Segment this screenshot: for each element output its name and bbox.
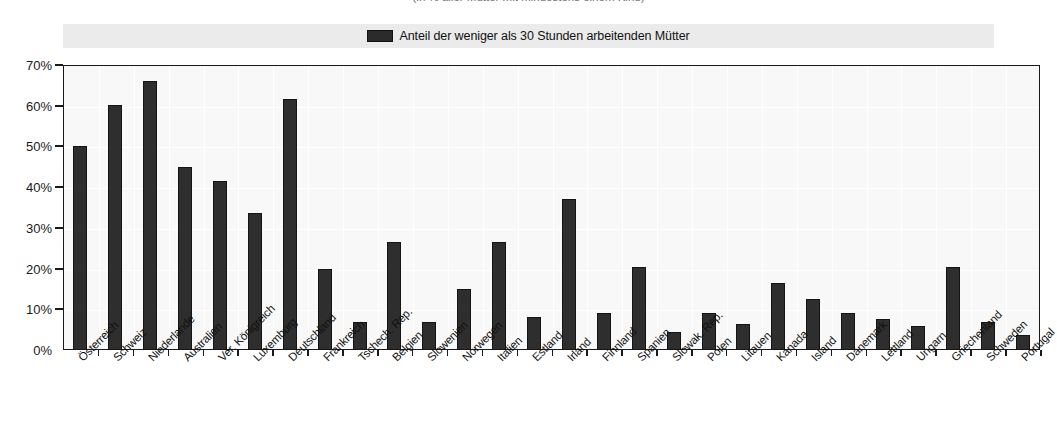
- x-tick-mark: [796, 350, 798, 356]
- x-tick-mark: [900, 350, 902, 356]
- x-tick-mark: [377, 350, 379, 356]
- x-tick-mark: [935, 350, 937, 356]
- gridline-vertical: [99, 66, 100, 349]
- x-tick-mark: [866, 350, 868, 356]
- x-tick-mark: [586, 350, 588, 356]
- x-tick-mark: [307, 350, 309, 356]
- gridline-vertical: [692, 66, 693, 349]
- plot-area: [63, 65, 1040, 350]
- gridline-vertical: [518, 66, 519, 349]
- legend-swatch-icon: [367, 30, 393, 42]
- gridline-horizontal: [64, 270, 1039, 271]
- gridline-horizontal: [64, 310, 1039, 311]
- gridline-horizontal: [64, 229, 1039, 230]
- gridline-horizontal: [64, 147, 1039, 148]
- gridline-vertical: [727, 66, 728, 349]
- gridline-vertical: [238, 66, 239, 349]
- y-tick-mark: [55, 308, 63, 310]
- y-tick-label: 30%: [26, 220, 52, 235]
- gridline-vertical: [867, 66, 868, 349]
- x-tick-mark: [761, 350, 763, 356]
- chart-title-strip: (in % aller Mütter mit mindestens einem …: [0, 0, 1057, 14]
- gridline-vertical: [971, 66, 972, 349]
- x-tick-mark: [517, 350, 519, 356]
- x-tick-mark: [726, 350, 728, 356]
- gridline-vertical: [762, 66, 763, 349]
- x-tick-mark: [133, 350, 135, 356]
- gridline-vertical: [343, 66, 344, 349]
- gridline-vertical: [378, 66, 379, 349]
- chart-legend: Anteil der weniger als 30 Stunden arbeit…: [63, 24, 994, 48]
- gridline-vertical: [448, 66, 449, 349]
- x-tick-mark: [203, 350, 205, 356]
- chart-region: 0%10%20%30%40%50%60%70% ÖsterreichSchwei…: [0, 55, 1057, 443]
- y-tick-mark: [55, 227, 63, 229]
- y-tick-mark: [55, 145, 63, 147]
- legend-label: Anteil der weniger als 30 Stunden arbeit…: [399, 29, 689, 43]
- gridline-vertical: [1006, 66, 1007, 349]
- gridline-vertical: [308, 66, 309, 349]
- x-tick-mark: [691, 350, 693, 356]
- gridline-vertical: [587, 66, 588, 349]
- y-tick-mark: [55, 105, 63, 107]
- gridline-horizontal: [64, 188, 1039, 189]
- gridline-vertical: [901, 66, 902, 349]
- x-tick-mark: [970, 350, 972, 356]
- x-tick-mark: [412, 350, 414, 356]
- y-tick-label: 50%: [26, 139, 52, 154]
- x-axis: ÖsterreichSchweizNiederlandeAustralienVe…: [63, 355, 1040, 443]
- gridline-vertical: [797, 66, 798, 349]
- x-tick-mark: [237, 350, 239, 356]
- gridline-vertical: [657, 66, 658, 349]
- y-tick-label: 10%: [26, 302, 52, 317]
- y-tick-mark: [55, 268, 63, 270]
- gridline-vertical: [483, 66, 484, 349]
- gridline-vertical: [622, 66, 623, 349]
- x-tick-mark: [1040, 350, 1042, 356]
- y-tick-label: 20%: [26, 261, 52, 276]
- gridline-horizontal: [64, 107, 1039, 108]
- gridline-vertical: [553, 66, 554, 349]
- x-tick-mark: [621, 350, 623, 356]
- x-tick-mark: [831, 350, 833, 356]
- x-tick-mark: [168, 350, 170, 356]
- y-tick-mark: [55, 64, 63, 66]
- y-tick-label: 70%: [26, 58, 52, 73]
- x-tick-mark: [1005, 350, 1007, 356]
- gridline-vertical: [204, 66, 205, 349]
- gridline-vertical: [936, 66, 937, 349]
- y-tick-label: 60%: [26, 98, 52, 113]
- gridline-vertical: [832, 66, 833, 349]
- page-title: (in % aller Mütter mit mindestens einem …: [0, 0, 1057, 3]
- y-tick-mark: [55, 186, 63, 188]
- gridline-vertical: [134, 66, 135, 349]
- y-tick-label: 40%: [26, 180, 52, 195]
- x-tick-mark: [272, 350, 274, 356]
- x-tick-mark: [447, 350, 449, 356]
- x-tick-mark: [342, 350, 344, 356]
- gridline-vertical: [413, 66, 414, 349]
- y-tick-label: 0%: [33, 343, 52, 358]
- gridline-vertical: [169, 66, 170, 349]
- x-tick-mark: [98, 350, 100, 356]
- x-tick-mark: [482, 350, 484, 356]
- y-axis: 0%10%20%30%40%50%60%70%: [0, 55, 57, 355]
- x-tick-mark: [552, 350, 554, 356]
- x-tick-mark: [656, 350, 658, 356]
- legend-item: Anteil der weniger als 30 Stunden arbeit…: [367, 29, 689, 43]
